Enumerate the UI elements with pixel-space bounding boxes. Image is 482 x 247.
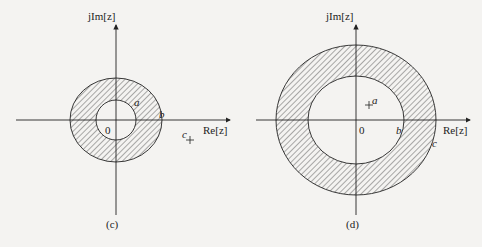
real-axis-label-c: Re[z] [203, 124, 227, 136]
point-a-label-d: a [372, 94, 378, 106]
point-b-label-c: b [159, 108, 165, 120]
origin-label-d: 0 [359, 124, 365, 136]
figure-c [16, 25, 230, 215]
point-c-label-d: c [432, 137, 437, 149]
caption-d: (d) [346, 218, 359, 230]
imag-axis-label-c: jIm[z] [88, 10, 115, 22]
real-axis-label-d: Re[z] [443, 124, 467, 136]
origin-label-c: 0 [105, 124, 111, 136]
point-a-label-c: a [134, 96, 140, 108]
imag-axis-label-d: jIm[z] [326, 10, 353, 22]
diagram-canvas [0, 0, 482, 247]
figure-d [256, 25, 470, 215]
caption-c: (c) [106, 218, 118, 230]
point-b-label-d: b [396, 124, 402, 136]
point-c-label-c: c [182, 128, 187, 140]
